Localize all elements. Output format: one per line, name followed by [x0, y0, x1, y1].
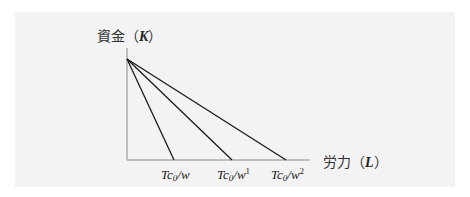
isocost-line-w1 [127, 59, 232, 160]
x-axis-label: 労力（L） [323, 154, 388, 170]
y-axis-label: 資金（K） [97, 28, 162, 44]
tick-label-w1: Tc0/w1 [217, 166, 250, 183]
tick-label-w: Tc0/w [161, 167, 190, 183]
isocost-diagram: 資金（K） 労力（L） Tc0/w Tc0/w1 Tc0/w2 [0, 0, 470, 197]
tick-label-w2: Tc0/w2 [271, 166, 304, 183]
